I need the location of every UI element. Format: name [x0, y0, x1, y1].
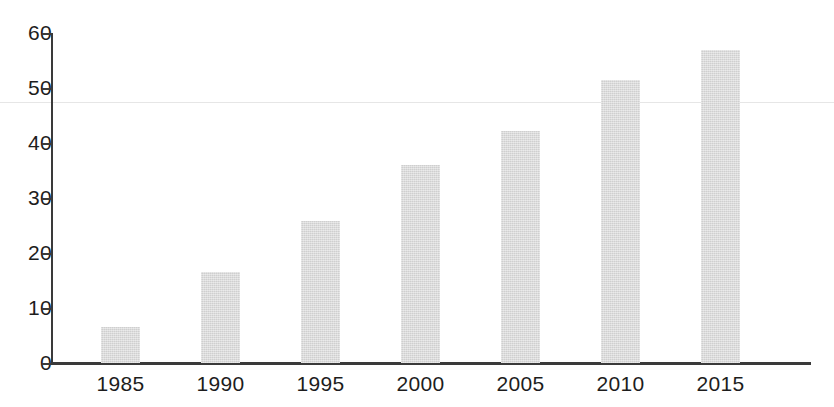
- bar-2000[interactable]: [401, 165, 440, 363]
- x-axis-label-2015: 2015: [671, 371, 771, 396]
- x-axis-label-1990: 1990: [171, 371, 271, 396]
- bar-1985[interactable]: [101, 327, 140, 363]
- bars-layer: [0, 0, 834, 407]
- x-axis-label-2010: 2010: [571, 371, 671, 396]
- bar-2010[interactable]: [601, 80, 640, 363]
- x-axis-label-1995: 1995: [271, 371, 371, 396]
- x-axis-label-2000: 2000: [371, 371, 471, 396]
- bar-2015[interactable]: [701, 50, 740, 364]
- bar-1995[interactable]: [301, 221, 340, 363]
- bar-chart: 0102030405060 19851990199520002005201020…: [0, 0, 834, 407]
- bar-1990[interactable]: [201, 272, 240, 363]
- bar-2005[interactable]: [501, 131, 540, 363]
- x-axis-label-2005: 2005: [471, 371, 571, 396]
- x-axis-label-1985: 1985: [71, 371, 171, 396]
